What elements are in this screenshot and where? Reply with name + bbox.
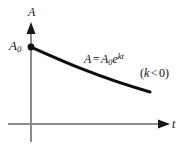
x-axis-arrowhead-icon (158, 120, 170, 129)
y-axis-arrowhead-icon (27, 22, 36, 34)
condition-annotation: (k<0) (140, 67, 169, 79)
condition-close-paren: ) (165, 66, 169, 80)
y-intercept-label: A0 (9, 39, 21, 54)
equation-operator: = (91, 52, 101, 66)
exponential-decay-figure: A t A0 A=A0ekt (k<0) (0, 0, 192, 148)
y-axis-label: A (28, 6, 35, 18)
intercept-base: A (9, 38, 17, 53)
y-intercept-marker (28, 44, 35, 51)
equation-annotation: A=A0ekt (84, 52, 124, 67)
condition-relation: < (149, 66, 159, 80)
equation-exponent: kt (118, 51, 124, 61)
x-axis-label: t (172, 118, 175, 130)
intercept-subscript: 0 (17, 44, 21, 54)
